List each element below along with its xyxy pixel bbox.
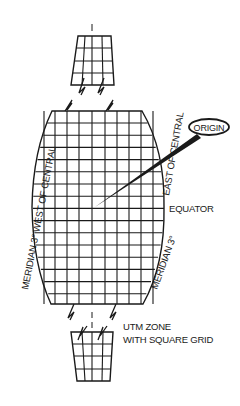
break-mark <box>65 100 72 111</box>
origin-label: ORIGIN <box>194 123 225 133</box>
equator-label: EQUATOR <box>169 203 214 214</box>
grid-line-vertical <box>102 36 103 85</box>
caption-line-2: WITH SQUARE GRID <box>123 334 214 345</box>
bottom-zone-fragment <box>71 326 113 381</box>
break-mark <box>110 304 116 320</box>
break-mark <box>98 78 104 95</box>
break-mark <box>106 100 113 111</box>
caption-line-1: UTM ZONE <box>123 321 171 332</box>
main-zone <box>32 100 164 320</box>
utm-diagram: ORIGIN MERIDIAN 3° WEST OF CENTRAL EAST … <box>0 0 240 406</box>
top-zone-fragment <box>71 36 114 95</box>
meridian-east-label-upper: EAST OF CENTRAL <box>160 111 185 196</box>
main-zone-outline <box>32 111 164 304</box>
break-mark <box>68 304 74 320</box>
